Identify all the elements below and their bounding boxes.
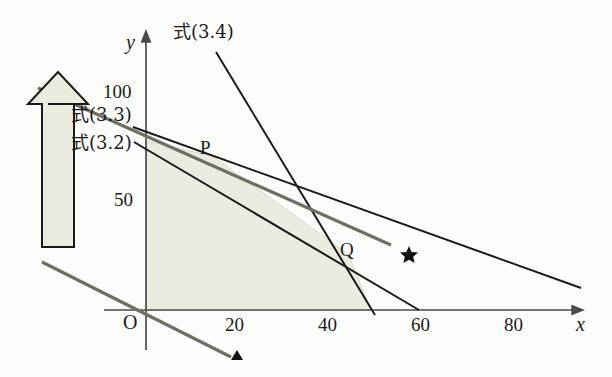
point-label-q: Q <box>340 240 354 259</box>
x-axis-label: x <box>576 314 585 334</box>
feasible-region <box>146 141 371 310</box>
origin-label: O <box>123 312 137 332</box>
y-axis-label: y <box>126 32 135 52</box>
x-tick-label-80: 80 <box>504 315 523 334</box>
x-tick-label-20: 20 <box>225 315 244 334</box>
equation-label-3-4: 式(3.4) <box>173 23 234 41</box>
improving-direction-arrow <box>28 72 88 247</box>
equation-label-3-3: 式(3.3) <box>71 106 132 124</box>
point-label-p: P <box>200 138 211 157</box>
triangle-marker-shape <box>231 350 243 360</box>
x-tick-label-60: 60 <box>411 315 430 334</box>
y-tick-label-100: 100 <box>103 82 132 101</box>
star-marker-shape <box>400 246 418 263</box>
x-tick-label-40: 40 <box>318 315 337 334</box>
equation-label-3-2: 式(3.2) <box>71 134 132 152</box>
linear-programming-figure: y x O 100 50 20 40 60 80 式(3.4) 式(3.3) 式… <box>0 0 612 377</box>
y-tick-label-50: 50 <box>114 190 133 209</box>
